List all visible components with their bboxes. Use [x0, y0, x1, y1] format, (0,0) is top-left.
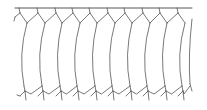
bottom-wall-end [42, 86, 43, 91]
cell-wall [57, 23, 62, 86]
top-junction-stem [177, 8, 178, 13]
top-junction-arm-left [97, 13, 108, 23]
edge-tick [14, 17, 15, 21]
bottom-zigzag [148, 86, 165, 94]
bottom-leg-left [108, 91, 113, 96]
top-junction-arm-left [80, 13, 90, 23]
bottom-wall-end [95, 86, 96, 91]
edge-tick [17, 95, 20, 96]
cell-wall [22, 23, 27, 86]
cell-wall [92, 23, 97, 86]
top-junction-arm-right [73, 13, 80, 23]
cell-wall [145, 23, 150, 86]
top-junction-arm-left [132, 13, 143, 23]
bottom-leg-left [91, 91, 96, 96]
bottom-wall-end [165, 86, 166, 91]
bottom-zigzag [183, 86, 190, 94]
bottom-zigzag [43, 86, 60, 94]
bottom-wall-end [24, 86, 25, 91]
bottom-zigzag [131, 86, 147, 94]
top-junction-arm-left [45, 13, 56, 23]
bottom-wall-end [112, 86, 113, 91]
top-junction-arm-right [20, 13, 27, 23]
bottom-leg-down [61, 91, 62, 100]
bottom-leg-down [43, 91, 44, 100]
bottom-leg-left [20, 91, 25, 96]
cell-wall [180, 23, 185, 86]
bottom-leg-left [126, 91, 131, 96]
bottom-leg-down [148, 91, 149, 100]
top-junction-arm-left [150, 13, 160, 23]
cell-wall [75, 23, 80, 86]
bottom-leg-down [96, 91, 97, 100]
bottom-leg-left [161, 91, 166, 96]
top-junction-stem [159, 8, 160, 13]
bottom-zigzag [113, 86, 130, 94]
top-junction-arm-left [27, 13, 38, 23]
bottom-zigzag [166, 86, 182, 94]
bottom-wall-end [77, 86, 78, 91]
bottom-leg-left [178, 91, 183, 96]
cell-wall [127, 23, 132, 86]
cell-wall [162, 23, 167, 86]
bottom-leg-left [143, 91, 148, 96]
top-junction-arm-left [115, 13, 125, 23]
bottom-leg-down [131, 91, 132, 100]
top-junction-arm-right [90, 13, 97, 23]
bottom-leg-down [166, 91, 167, 100]
top-junction-stem [19, 8, 20, 13]
top-junction-stem [37, 8, 38, 13]
bottom-zigzag [25, 86, 42, 94]
bottom-leg-left [73, 91, 78, 96]
top-cell-row [14, 8, 185, 23]
tissue-drawing [0, 0, 207, 110]
top-junction-arm-left [15, 13, 20, 17]
top-junction-stem [55, 8, 56, 13]
bottom-wall-end [130, 86, 131, 91]
top-junction-arm-right [160, 13, 167, 23]
columnar-cells [22, 19, 192, 86]
bottom-wall-end [190, 84, 192, 91]
cell-wall [40, 23, 45, 86]
top-junction-arm-left [62, 13, 73, 23]
top-junction-arm-left [167, 13, 178, 23]
bottom-cell-row [17, 84, 192, 100]
bottom-wall-end [60, 86, 61, 91]
top-junction-arm-right [56, 13, 62, 23]
cell-wall-right [189, 19, 192, 84]
bottom-leg-down [25, 91, 26, 100]
bottom-leg-left [38, 91, 43, 96]
top-junction-arm-right [125, 13, 132, 23]
top-junction-stem [72, 8, 73, 13]
bottom-leg-left [56, 91, 61, 96]
bottom-zigzag [96, 86, 112, 94]
bottom-leg-down [78, 91, 79, 100]
bottom-zigzag [78, 86, 95, 94]
top-junction-arm-right [38, 13, 45, 23]
bottom-wall-end [182, 86, 183, 91]
cell-diagram [0, 0, 207, 110]
top-junction-arm-right [178, 13, 185, 23]
top-junction-arm-right [143, 13, 150, 23]
bottom-leg-down [113, 91, 114, 100]
bottom-wall-end [147, 86, 148, 91]
top-junction-arm-right [108, 13, 115, 23]
top-junction-stem [124, 8, 125, 13]
top-junction-stem [142, 8, 143, 13]
top-junction-stem [107, 8, 108, 13]
top-junction-stem [89, 8, 90, 13]
bottom-zigzag [61, 86, 77, 94]
cell-wall [110, 23, 115, 86]
